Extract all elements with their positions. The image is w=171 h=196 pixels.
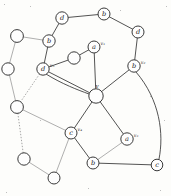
node-label: d	[136, 28, 140, 36]
graph-edge	[18, 113, 23, 153]
node-subscript-label: v₁	[101, 41, 106, 46]
graph-edge	[22, 110, 65, 131]
graph-edge	[9, 75, 15, 101]
graph-edge	[68, 15, 98, 18]
graph-node[interactable]: b	[43, 35, 55, 47]
node-subscript-label: v₃	[134, 133, 139, 138]
paper-speck	[166, 6, 167, 7]
graph-edge	[29, 162, 49, 175]
node-circle[interactable]	[89, 89, 103, 103]
paper-speck	[6, 192, 7, 193]
paper-speck	[150, 96, 151, 97]
graph-node[interactable]: cv₄	[65, 127, 82, 139]
node-label: a	[125, 135, 129, 143]
paper-speck	[160, 190, 161, 191]
graph-edge	[20, 74, 39, 102]
node-subscript-label: v₂	[141, 60, 146, 65]
graph-node[interactable]: bv₂	[128, 60, 146, 73]
graph-node[interactable]	[11, 30, 24, 43]
graph-node[interactable]: av₃	[121, 133, 139, 146]
paper-speck	[30, 6, 31, 7]
graph-edge-curved	[136, 72, 161, 159]
graph-edge	[52, 23, 59, 36]
graph-edge	[109, 17, 133, 30]
node-label: d	[60, 14, 64, 22]
node-label: b	[102, 10, 106, 18]
graph-node[interactable]	[48, 172, 60, 184]
paper-speck	[4, 4, 5, 5]
node-label: b	[47, 37, 51, 45]
node-label: d	[41, 65, 45, 73]
node-circle[interactable]	[2, 63, 14, 75]
node-circle[interactable]	[11, 30, 24, 43]
graph-node[interactable]: b	[98, 8, 110, 20]
graph-figure: dbdbav₁bv₂dv₅cv₄av₃bcv	[0, 0, 171, 196]
node-label: a	[92, 43, 96, 51]
node-circle[interactable]	[48, 172, 60, 184]
graph-edge	[44, 47, 48, 63]
node-circle[interactable]	[11, 101, 24, 114]
graph-node[interactable]: c	[151, 159, 163, 171]
graph-edge	[10, 42, 16, 63]
graph-node[interactable]: av₁	[88, 41, 105, 53]
graph-node[interactable]	[68, 52, 80, 64]
node-label: c	[69, 129, 73, 137]
node-circle[interactable]	[18, 153, 30, 165]
paper-speck	[88, 188, 89, 189]
graph-edge	[23, 37, 43, 40]
paper-speck	[120, 10, 121, 11]
graph-edge	[48, 72, 90, 93]
node-subscript-label: v₄	[78, 127, 83, 132]
node-subscript-label: v₅	[50, 63, 55, 68]
graph-edge	[99, 163, 152, 165]
graph-edge	[74, 102, 92, 129]
paper-speck	[164, 120, 165, 121]
graph-edge	[79, 50, 89, 55]
graph-edge	[98, 142, 123, 159]
graph-edge	[101, 70, 129, 92]
curved-edges-layer	[46, 72, 161, 159]
node-label: c	[155, 161, 159, 169]
node-label: b	[132, 62, 136, 70]
nodes-layer: dbdbav₁bv₂dv₅cv₄av₃bcv	[2, 8, 163, 184]
graph-node[interactable]	[2, 63, 14, 75]
edges-layer	[9, 15, 151, 175]
paper-speck	[40, 120, 41, 121]
graph-canvas: dbdbav₁bv₂dv₅cv₄av₃bcv	[0, 0, 171, 196]
node-label: b	[91, 159, 95, 167]
graph-edge	[74, 138, 89, 159]
graph-edge	[100, 102, 124, 135]
graph-node-center[interactable]: v	[89, 83, 103, 104]
graph-node[interactable]: d	[56, 12, 68, 24]
graph-node[interactable]	[11, 101, 24, 114]
graph-edge	[56, 138, 69, 172]
graph-node[interactable]: b	[87, 157, 99, 169]
graph-edge	[135, 38, 138, 60]
graph-node[interactable]	[18, 153, 30, 165]
graph-node[interactable]: d	[132, 26, 144, 38]
graph-edge-curved	[46, 74, 89, 94]
center-vertex-label: v	[95, 83, 99, 89]
node-circle[interactable]	[68, 52, 80, 64]
